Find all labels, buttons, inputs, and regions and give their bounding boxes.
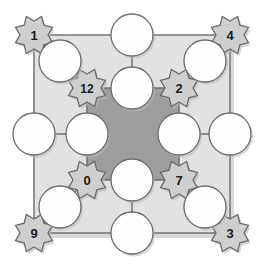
circle-outer-left-shape: [13, 113, 55, 155]
circle-outer-top-shape: [111, 14, 153, 56]
circle-inner-right-shape: [158, 113, 200, 155]
circle-diag-top-left-shape: [39, 40, 81, 82]
circle-diag-top-right-shape: [184, 40, 226, 82]
circle-inner-bottom-shape: [111, 159, 153, 201]
circle-diag-bottom-left-shape: [39, 186, 81, 228]
diagram-canvas: 149312207: [0, 0, 266, 269]
circle-outer-bottom-shape: [111, 212, 153, 254]
lattice-diagram: 149312207: [0, 0, 266, 269]
circle-diag-bottom-right-shape: [184, 186, 226, 228]
circle-outer-right-shape: [209, 113, 251, 155]
circle-inner-top-shape: [111, 67, 153, 109]
circle-inner-left-shape: [66, 113, 108, 155]
